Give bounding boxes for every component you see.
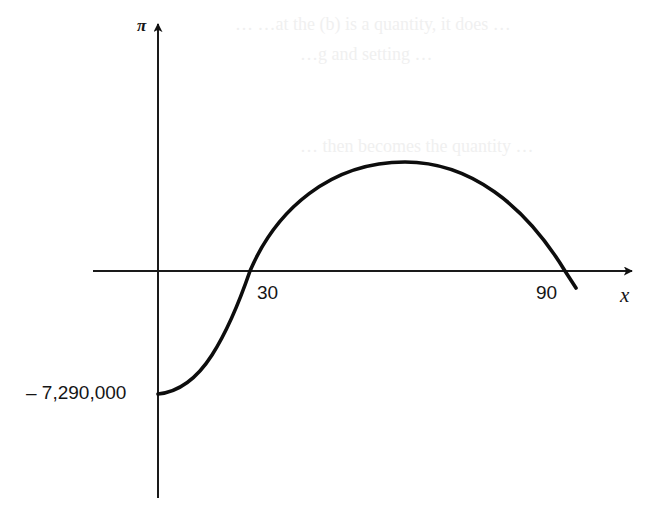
y-intercept-label: – 7,290,000 [26, 382, 126, 404]
profit-curve [158, 162, 576, 394]
x-axis-label: x [620, 283, 629, 308]
tick-label-30: 30 [257, 282, 278, 304]
profit-function-chart [0, 0, 650, 519]
y-axis-label: π [137, 16, 146, 36]
tick-label-90: 90 [536, 282, 557, 304]
